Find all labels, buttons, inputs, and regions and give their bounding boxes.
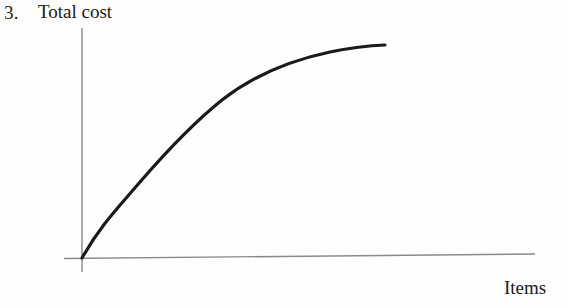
figure-canvas: 3. Total cost Items	[0, 0, 568, 308]
total-cost-curve	[82, 45, 385, 258]
x-axis-line	[64, 254, 535, 259]
plot-area	[0, 0, 568, 308]
